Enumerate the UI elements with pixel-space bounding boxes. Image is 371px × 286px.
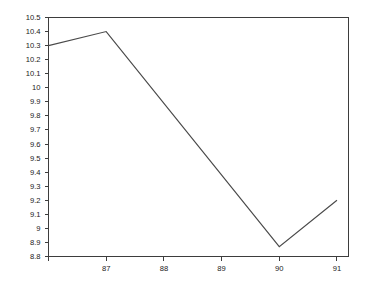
x-tick-label: 88	[160, 264, 168, 273]
y-tick-label: 9.4	[30, 168, 41, 177]
x-tick-label: 91	[333, 264, 341, 273]
y-tick-label: 9.2	[30, 196, 41, 205]
y-tick-label: 9.9	[30, 97, 41, 106]
y-tick-label: 10.1	[26, 69, 41, 78]
y-tick-label: 10.2	[26, 55, 41, 64]
y-tick-label: 9.1	[30, 210, 41, 219]
y-tick-label: 9	[36, 224, 40, 233]
y-tick-label: 9.5	[30, 154, 41, 163]
y-tick-label: 10	[32, 83, 40, 92]
y-tick-label: 9.6	[30, 140, 41, 149]
y-tick-label: 8.8	[30, 252, 41, 261]
y-tick-label: 8.9	[30, 238, 41, 247]
y-tick-label: 9.3	[30, 182, 41, 191]
y-tick-label: 10.4	[26, 27, 41, 36]
x-tick-label: 90	[275, 264, 283, 273]
y-tick-label: 10.3	[26, 41, 41, 50]
x-tick-label: 87	[102, 264, 110, 273]
y-tick-label: 9.8	[30, 111, 41, 120]
chart-canvas: 8.88.999.19.29.39.49.59.69.79.89.91010.1…	[0, 0, 371, 286]
line-chart: 8.88.999.19.29.39.49.59.69.79.89.91010.1…	[0, 0, 371, 286]
chart-background	[0, 0, 371, 286]
y-tick-label: 9.7	[30, 125, 41, 134]
y-tick-label: 10.5	[26, 13, 41, 22]
x-tick-label: 89	[217, 264, 225, 273]
